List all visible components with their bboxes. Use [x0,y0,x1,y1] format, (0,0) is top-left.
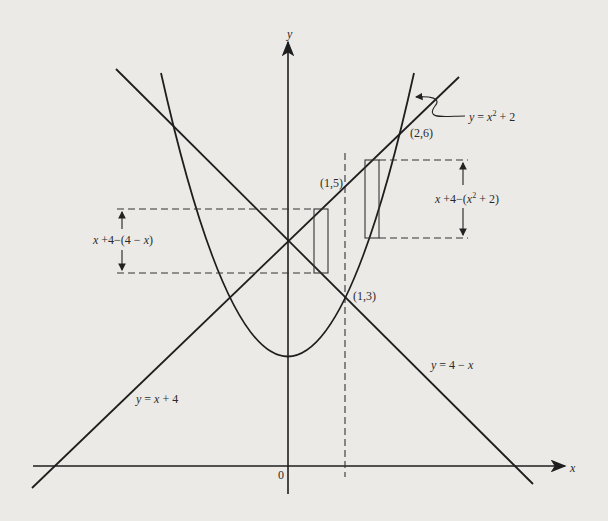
left-dimension-label: x +4−(4 − x) [92,234,154,246]
point-label-1-3: (1,3) [353,290,376,302]
origin-label: 0 [278,469,284,481]
y-axis-label: y [287,28,292,40]
point-label-1-5: (1,5) [320,177,343,189]
line-down-label: y = 4 − x [431,359,473,371]
x-axis-label: x [570,462,575,474]
parabola-label: y = x2 + 2 [469,110,515,123]
diagram-canvas [0,0,608,521]
right-dimension-label: x +4−(x2 + 2) [434,192,500,205]
right-representative-rectangle [365,160,379,238]
left-representative-rectangle [314,209,328,273]
point-label-2-6: (2,6) [410,127,433,139]
line-y-equals-x-plus-4 [32,77,459,488]
parabola-label-leader [416,97,465,117]
line-up-label: y = x + 4 [136,393,178,405]
line-y-equals-4-minus-x [116,69,533,484]
diagram: y x 0 (2,6) (1,5) (1,3) y = x2 + 2 y = x… [0,0,608,521]
